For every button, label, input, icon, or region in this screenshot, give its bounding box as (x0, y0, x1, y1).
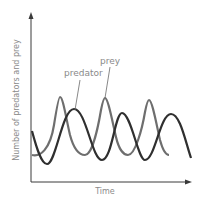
y-axis-arrow-icon (29, 12, 34, 19)
x-axis-arrow-icon (185, 180, 192, 185)
x-axis-title: Time (94, 187, 115, 196)
y-axis-title: Number of predators and prey (12, 39, 21, 161)
predator-leader-line (75, 80, 80, 110)
prey-leader-line (105, 67, 110, 98)
predator-prey-chart: predator prey Time Number of predators a… (0, 0, 204, 203)
prey-line (32, 97, 169, 155)
prey-label: prey (100, 56, 121, 66)
predator-label: predator (64, 68, 103, 78)
